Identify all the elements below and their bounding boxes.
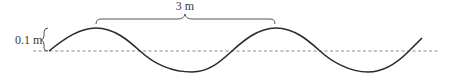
wavelength-brace — [96, 14, 275, 24]
amplitude-label: 0.1 m — [15, 33, 43, 47]
wavelength-label: 3 m — [176, 0, 195, 13]
wave-curve — [49, 28, 422, 72]
wave-diagram: 3 m 0.1 m — [0, 0, 452, 78]
